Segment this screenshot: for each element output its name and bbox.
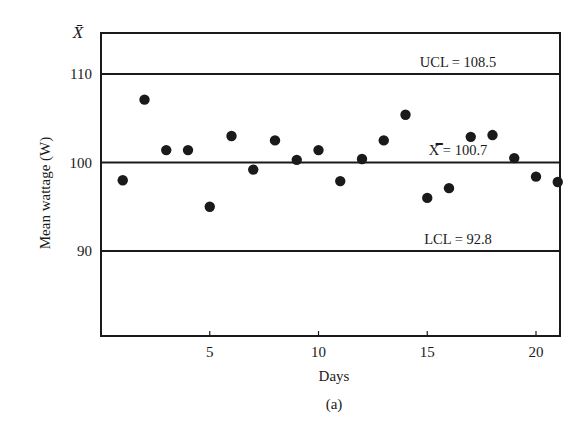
x-tick-label: 10 [311,344,326,360]
data-point [466,132,476,142]
data-point [400,110,410,120]
plot-border [101,33,560,336]
control-line-label-lcl: LCL = 92.8 [424,231,492,247]
data-point [509,153,519,163]
data-point [553,177,563,187]
plot-frame [101,33,560,336]
axis-ticks: 510152090100110 [70,66,544,360]
figure-caption: (a) [326,396,343,413]
data-point [292,155,302,165]
data-point [248,164,258,174]
y-tick-label: 100 [70,155,93,171]
y-axis-label: Mean wattage (W) [37,137,54,249]
data-point [379,135,389,145]
data-point [118,175,128,185]
data-point [205,202,215,212]
control-chart: UCL = 108.5X̿ = 100.7LCL = 92.8 51015209… [0,0,588,433]
y-tick-label: 90 [77,243,92,259]
data-point [183,145,193,155]
data-point [531,171,541,181]
data-point [444,183,454,193]
data-point [487,130,497,140]
control-line-label-ucl: UCL = 108.5 [420,54,497,70]
control-line-label-center: X̿ = 100.7 [429,142,488,158]
data-point [139,94,149,104]
data-points [118,94,563,211]
data-point [270,135,280,145]
data-point [357,154,367,164]
x-axis-label: Days [319,368,350,384]
y-tick-label: 110 [70,66,92,82]
x-tick-label: 15 [420,344,435,360]
x-tick-label: 20 [529,344,544,360]
data-point [313,145,323,155]
data-point [422,193,432,203]
data-point [226,131,236,141]
data-point [335,176,345,186]
data-point [161,145,171,155]
x-tick-label: 5 [206,344,214,360]
y-axis-symbol: X̄ [72,23,84,42]
